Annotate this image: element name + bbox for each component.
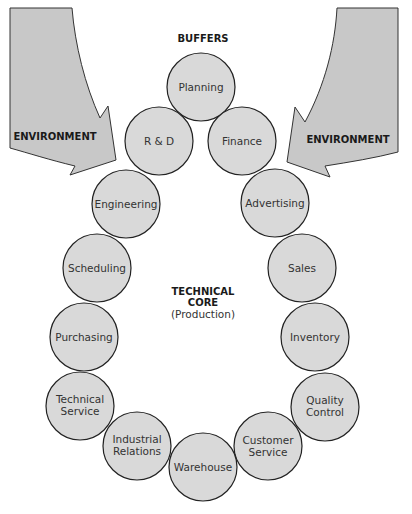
svg-text:Advertising: Advertising — [245, 197, 304, 209]
svg-text:Purchasing: Purchasing — [55, 331, 112, 343]
buffer-industrial-relations: Industrial Relations — [103, 412, 171, 480]
buffer-engineering: Engineering — [92, 170, 160, 238]
svg-text:Technical: Technical — [55, 393, 104, 405]
svg-text:Control: Control — [306, 406, 344, 418]
svg-text:Scheduling: Scheduling — [68, 262, 126, 274]
buffer-purchasing: Purchasing — [50, 303, 118, 371]
buffer-finance: Finance — [208, 107, 276, 175]
svg-text:Customer: Customer — [242, 434, 294, 446]
buffer-technical-service: Technical Service — [46, 372, 114, 440]
technical-core-line2: CORE — [188, 297, 219, 308]
svg-text:Service: Service — [249, 446, 288, 458]
right-environment-arrow — [287, 8, 398, 177]
svg-text:Quality: Quality — [306, 394, 344, 406]
svg-text:Industrial: Industrial — [112, 433, 161, 445]
svg-text:Sales: Sales — [288, 262, 316, 274]
svg-text:Finance: Finance — [222, 135, 262, 147]
buffers-diagram: ENVIRONMENT ENVIRONMENT BUFFERS Planning… — [0, 0, 412, 514]
svg-text:Inventory: Inventory — [290, 331, 340, 343]
svg-text:Relations: Relations — [113, 445, 161, 457]
buffer-warehouse: Warehouse — [169, 433, 237, 501]
buffer-sales: Sales — [268, 234, 336, 302]
right-environment-label: ENVIRONMENT — [306, 134, 389, 145]
svg-text:Engineering: Engineering — [95, 198, 158, 210]
buffer-scheduling: Scheduling — [63, 234, 131, 302]
buffer-quality-control: Quality Control — [291, 373, 359, 441]
buffer-advertising: Advertising — [241, 169, 309, 237]
buffer-customer-service: Customer Service — [234, 412, 302, 480]
technical-core-line3: (Production) — [171, 308, 235, 320]
svg-text:R & D: R & D — [144, 135, 174, 147]
buffers-title: BUFFERS — [177, 33, 228, 44]
svg-text:Planning: Planning — [178, 81, 223, 93]
buffer-planning: Planning — [167, 53, 235, 121]
buffer-inventory: Inventory — [281, 303, 349, 371]
svg-text:Warehouse: Warehouse — [174, 461, 232, 473]
left-environment-label: ENVIRONMENT — [13, 131, 96, 142]
technical-core-line1: TECHNICAL — [172, 286, 236, 297]
left-environment-arrow — [10, 8, 116, 175]
buffer-r-and-d: R & D — [125, 107, 193, 175]
svg-text:Service: Service — [61, 405, 100, 417]
